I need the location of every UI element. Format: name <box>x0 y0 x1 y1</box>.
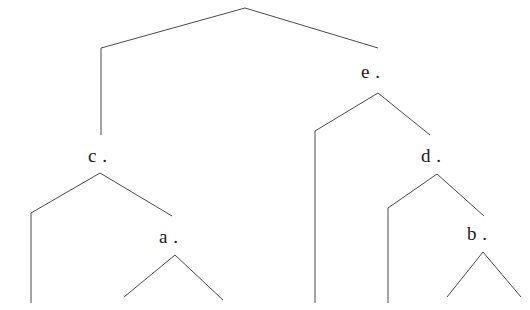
node-label-e: e . <box>361 62 380 81</box>
edge-e-right <box>378 93 430 135</box>
edge-d-right <box>437 174 484 216</box>
edge-b-right <box>483 252 521 297</box>
edge-c-left <box>31 173 100 303</box>
edge-a-right <box>175 255 223 300</box>
node-label-a: a . <box>159 227 178 246</box>
edge-b-left <box>447 252 483 297</box>
edge-d-left <box>388 174 437 303</box>
edge-e-left <box>315 93 378 303</box>
edge-root-left <box>101 8 245 135</box>
edge-root-right <box>245 8 378 48</box>
tree-diagram-canvas: c . e . a . d . b . <box>0 0 530 310</box>
tree-edges-svg <box>0 0 530 310</box>
edge-a-left <box>124 255 175 297</box>
node-label-d: d . <box>421 146 442 165</box>
node-label-c: c . <box>88 146 107 165</box>
edge-c-right <box>100 173 172 216</box>
node-label-b: b . <box>467 224 488 243</box>
